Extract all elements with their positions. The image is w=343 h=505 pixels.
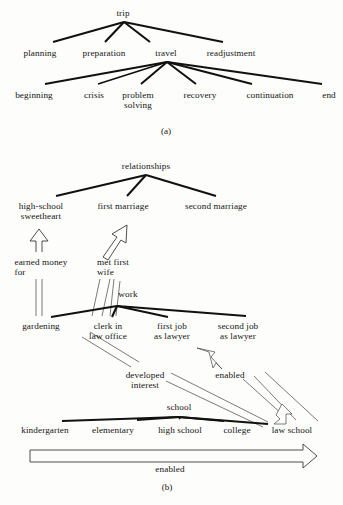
node-label-travel: travel [155,48,177,58]
node-label-clerk-in-law-office: clerk in law office [89,321,127,341]
node-label-elementary: elementary [92,425,134,435]
node-label-high-school-sweetheart: high-school sweetheart [19,201,63,221]
hollow-arrow-enabled-second-job [197,348,222,369]
line-clerk-metwife-left2 [110,279,114,316]
node-label-kindergarten: kindergarten [21,425,68,435]
panel-b-work-edges [51,306,246,317]
node-label-high-school: high school [158,425,202,435]
node-label-second-marriage: second marriage [185,201,247,211]
node-label-crisis: crisis [84,90,104,100]
node-label-college: college [223,425,250,435]
hollow-arrow-met-first-wife [103,225,127,260]
hollow-arrow-earned-money-for [30,229,48,252]
node-label-beginning: beginning [15,90,53,100]
relation-label-developed-interest: developed interest [126,370,165,390]
node-label-school: school [167,402,192,412]
panel-tag-a: (a) [161,126,171,136]
relation-label-enabled-bottom: enabled [155,464,184,474]
node-label-work: work [118,289,137,299]
panel-b-relationship-edges [56,175,216,196]
line-developed-interest-a [82,337,131,367]
node-label-problem-solving: problem solving [122,90,153,110]
edge-trip-readjustment [124,22,223,42]
relation-label-earned-money-for: earned money for [15,257,68,277]
hollow-arrowhead-law-school [274,404,292,424]
line-clerk-metwife-right [102,279,110,316]
line-developed-to-lawschool-a [171,373,268,422]
node-label-second-job-as-lawyer: second job as lawyer [218,321,259,341]
node-label-planning: planning [24,48,57,58]
node-label-readjustment: readjustment [207,48,256,58]
relation-label-enabled-middle: enabled [215,370,244,380]
edge-relationships-second-marriage [146,175,216,196]
line-enabled-lawschool-a [243,379,283,415]
panel-tag-b: (b) [162,482,173,492]
node-label-trip: trip [116,8,129,18]
edge-relationships-sweetheart [56,175,146,196]
node-label-relationships: relationships [122,161,170,171]
relation-label-met-first-wife: met first wife [97,257,129,277]
figure-canvas: trip planning preparation travel readjus… [0,0,343,505]
node-label-preparation: preparation [83,48,126,58]
node-label-recovery: recovery [184,90,217,100]
node-label-first-marriage: first marriage [97,201,148,211]
node-label-gardening: gardening [22,321,60,331]
node-label-continuation: continuation [246,90,293,100]
node-label-end: end [322,90,336,100]
edge-school-law-school [179,417,268,424]
node-label-first-job-as-lawyer: first job as lawyer [154,321,190,341]
edge-work-gardening [51,306,117,317]
node-label-law-school: law school [272,425,313,435]
panel-b-school-edges [62,417,268,424]
